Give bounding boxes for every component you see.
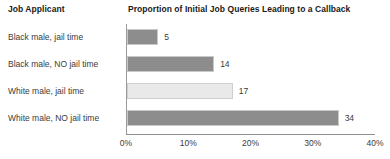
chart-title: Proportion of Initial Job Queries Leadin… <box>128 4 350 14</box>
category-label: White male, jail time <box>8 78 84 105</box>
bar-chart: Black male, jail time 5 Black male, NO j… <box>0 22 390 159</box>
x-axis-tick-label: 40% <box>366 138 383 148</box>
category-label: Black male, NO jail time <box>8 51 98 78</box>
x-axis-tick-label: 20% <box>242 138 259 148</box>
table-row: Black male, NO jail time 14 <box>0 51 390 78</box>
table-row: White male, jail time 17 <box>0 78 390 105</box>
x-axis-line <box>126 134 375 135</box>
bar-value-label: 34 <box>345 105 354 132</box>
bar-white-male-jail-time <box>127 83 233 99</box>
bar-value-label: 17 <box>239 78 248 105</box>
bar-value-label: 5 <box>164 24 169 51</box>
category-label: White male, NO jail time <box>8 105 99 132</box>
bar-value-label: 14 <box>220 51 229 78</box>
table-row: White male, NO jail time 34 <box>0 105 390 132</box>
table-row: Black male, jail time 5 <box>0 24 390 51</box>
category-label: Black male, jail time <box>8 24 83 51</box>
bar-black-male-no-jail-time <box>127 56 214 72</box>
bar-black-male-jail-time <box>127 29 158 45</box>
column-header-job-applicant: Job Applicant <box>8 4 65 14</box>
x-axis-tick-label: 0% <box>120 138 132 148</box>
x-axis-tick-label: 30% <box>304 138 321 148</box>
x-axis-tick-label: 10% <box>180 138 197 148</box>
bar-white-male-no-jail-time <box>127 110 339 126</box>
